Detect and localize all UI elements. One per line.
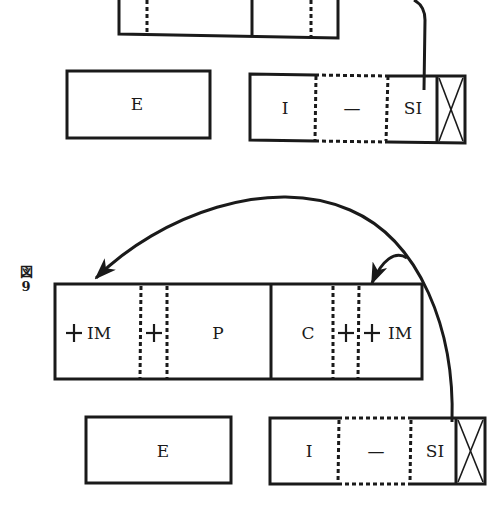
long-curved-arrow [96,197,452,422]
plus-icon [146,324,162,342]
diagram-canvas: E I — SI 図 9 IM [0,0,498,510]
bottom-i-label: I [306,441,313,461]
top-partial-bar-outline [119,0,338,38]
middle-dashed-div-4 [358,286,359,378]
top-i-dashed-div-2 [386,76,388,141]
bottom-e-label: E [157,441,169,461]
bottom-si-label: SI [426,441,444,461]
middle-c-label: C [301,323,314,343]
bottom-si-cell-outline [411,418,485,484]
figure-label-number: 9 [21,279,30,294]
bottom-i-dashed-div-2 [410,420,411,482]
top-i-label: I [282,98,289,118]
middle-left-im-label: IM [87,323,111,343]
bottom-i-cell-outline [270,418,338,484]
figure-label-kanji: 図 [20,264,33,279]
top-i-dashed-div-1 [315,76,316,140]
plus-icon [66,324,82,342]
top-i-dashed-bottom [315,141,388,142]
middle-dashed-div-1 [140,286,141,378]
bottom-minus-label: — [368,441,385,461]
bottom-e-box: E [86,417,231,483]
middle-p-label: P [212,323,223,343]
top-i-dashed-top [315,75,388,76]
middle-bar: IM P C IM [55,284,422,379]
top-si-label: SI [404,98,422,118]
top-minus-label: — [344,98,361,118]
plus-icon [338,324,354,342]
plus-icon [364,324,380,342]
top-si-cell-outline [388,76,465,143]
middle-right-im-label: IM [388,323,412,343]
top-e-label: E [131,94,143,114]
short-curved-arrow [372,255,407,283]
top-i-box: I — SI [250,74,465,143]
bottom-i-dashed-div-1 [338,420,339,482]
top-e-box: E [67,71,210,138]
top-partial-bar [119,0,338,38]
bottom-i-box: I — SI [270,418,485,484]
